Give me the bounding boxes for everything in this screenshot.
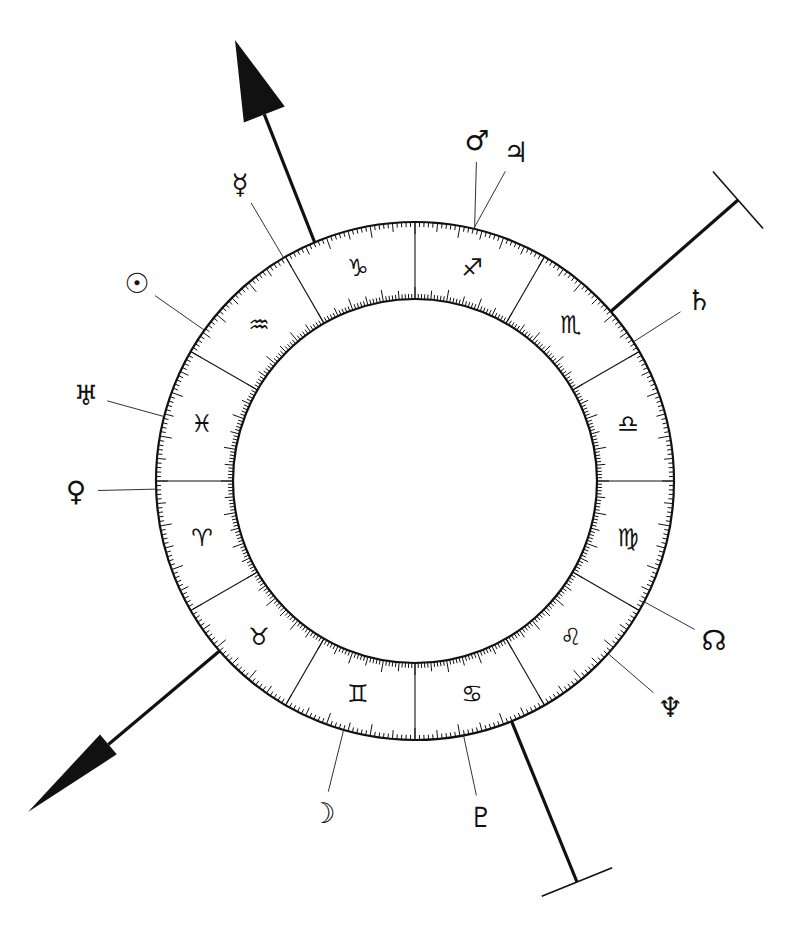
neptune-icon: ♆︎ [657,691,682,724]
inner-tick [242,558,250,562]
axis-bar-upper-right-shaft [611,200,738,311]
inner-tick [431,291,432,300]
outer-tick [217,315,226,323]
inner-tick [398,291,399,300]
inner-tick [231,528,240,530]
sign-boundary [506,257,545,324]
inner-tick [596,464,605,465]
sign-boundary [286,257,325,324]
inner-tick [492,646,496,654]
sign-glyph-pisces-icon: ♓︎ [191,410,213,438]
outer-tick [620,332,627,337]
inner-tick [431,662,432,671]
outer-tick [604,315,613,323]
axis-bar-upper-right-crossbar [713,171,763,228]
outer-tick [458,724,460,736]
outer-tick [203,624,210,629]
saturn-icon: ♄︎ [686,284,711,317]
sign-glyphs: ♈︎♉︎♊︎♋︎♌︎♍︎♎︎♏︎♐︎♑︎♒︎♓︎ [191,254,638,708]
pointer-line-mercury [251,203,283,258]
sign-glyph-taurus-icon: ♉︎ [248,623,270,651]
jupiter-icon: ♃︎ [503,136,528,169]
outer-tick [172,565,183,569]
outer-tick [348,722,350,731]
mercury-icon: ☿︎ [231,168,248,201]
inner-tick [477,299,481,310]
inner-tick [225,497,234,498]
sign-glyph-capricorn-icon: ♑︎ [347,254,369,282]
sign-glyph-aries-icon: ♈︎ [191,524,213,552]
outer-tick [180,587,188,591]
mc-arrow-shaft [264,114,314,242]
inner-tick [290,332,298,341]
pointer-line-uranus [107,401,164,417]
inner-tick [462,657,464,666]
outer-tick [437,730,438,739]
inner-tick [591,528,600,530]
inner-tick [554,598,563,606]
inner-tick [233,543,244,547]
outer-tick [348,231,350,240]
sign-glyph-virgo-icon: ♍︎ [617,524,639,552]
inner-tick [224,513,236,515]
inner-tick [477,652,481,663]
inner-tick [462,297,464,306]
mc-arrow-head-icon [235,40,285,122]
outer-tick [306,246,310,254]
outer-tick [165,546,174,548]
outer-tick [642,372,650,376]
axis-bar-bottom-crossbar [542,868,612,897]
outer-tick [499,713,503,724]
inner-tick [594,513,606,515]
outer-tick [647,565,658,569]
inner-tick [447,290,449,302]
outer-tick [165,414,174,416]
inner-tick [532,332,540,341]
outer-tick [664,458,673,459]
inner-tick [580,558,588,562]
sign-glyph-aquarius-icon: ♒︎ [248,311,270,339]
venus-icon: ♀︎ [66,475,87,508]
pointer-line-sun [155,296,204,331]
outer-tick [392,223,393,232]
sign-glyph-gemini-icon: ♊︎ [347,680,369,708]
inner-tick [233,415,244,419]
moon-icon: ☽︎ [310,797,335,830]
inner-tick [580,400,588,404]
sign-boundary [573,572,640,611]
ic-arrow-shaft [108,651,219,744]
outer-tick [664,503,673,504]
zodiac-chart: ♈︎♉︎♊︎♋︎♌︎♍︎♎︎♏︎♐︎♑︎♒︎♓︎ ☿︎☉︎♅︎♀︎☽︎♇︎♆︎☊… [0,0,789,925]
pointer-line-moon [328,730,343,792]
pointer-line-neptune [608,654,653,693]
inner-tick [381,660,383,672]
outer-tick [326,713,330,724]
outer-tick [574,670,582,679]
inner-tick [334,646,338,654]
inner-tick [231,432,240,434]
outer-tick [592,658,598,664]
outer-tick [574,283,582,292]
inner-tick [366,297,368,306]
inner-tick [554,356,563,364]
inner-tick [532,620,540,629]
outer-tick [604,640,613,648]
inner-tick [349,299,353,310]
outer-tick [160,524,172,526]
outer-tick [658,436,670,438]
sign-boundary [191,352,258,391]
outer-tick [370,226,372,238]
outer-tick [180,372,188,376]
inner-tick [447,660,449,672]
sign-boundary [506,639,545,706]
outer-tick [480,722,482,731]
outer-tick [172,392,183,396]
pluto-icon: ♇︎ [468,801,493,834]
inner-tick [596,497,605,498]
outer-tick [437,223,438,232]
outer-tick [160,436,172,438]
inner-tick [349,652,353,663]
sign-boundary [286,639,325,706]
outer-tick [458,226,460,238]
sign-boundary [573,352,640,391]
